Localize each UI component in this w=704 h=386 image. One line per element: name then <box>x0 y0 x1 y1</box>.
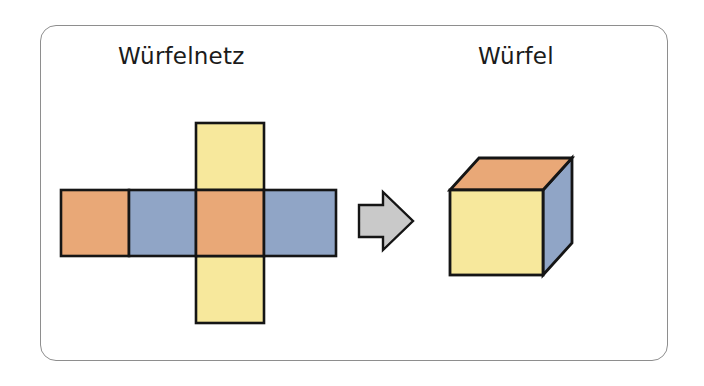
caption-wuerfelnetz: Würfelnetz <box>118 45 244 68</box>
figure-root: Würfelnetz Würfel <box>0 0 704 386</box>
panel-frame <box>40 25 668 361</box>
caption-wuerfel: Würfel <box>478 45 554 68</box>
